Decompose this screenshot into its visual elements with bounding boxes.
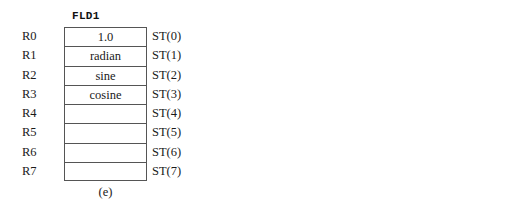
figure-panel-e: FLD1 R0 R1 R2 R3 R4 R5 R6 R7 1.0 radian … [0,0,260,220]
stack-alias-label: ST(1) [152,46,204,65]
register-label: R1 [22,46,62,65]
register-label: R4 [22,104,62,123]
stack-alias-column-e: ST(0) ST(1) ST(2) ST(3) ST(4) ST(5) ST(6… [152,27,204,181]
register-label: R6 [22,143,62,162]
stack-alias-label: ST(6) [152,143,204,162]
panel-caption-e: (e) [64,184,147,200]
instruction-heading-e: FLD1 [72,10,110,23]
instruction-mnemonic: FLD1 [72,10,100,22]
register-label: R3 [22,85,62,104]
register-label: R0 [22,27,62,46]
stack-cell: cosine [65,86,146,105]
register-label: R5 [22,123,62,142]
stack-alias-label: ST(0) [152,27,204,46]
register-label: R2 [22,66,62,85]
stack-cell: sine [65,67,146,86]
stack-cell: radian [65,47,146,66]
stack-cell [65,105,146,124]
figure-panel-f: FADDST(0), ST(1) 1.0 + radian radian sin… [260,0,521,220]
register-label: R7 [22,162,62,181]
stack-alias-label: ST(4) [152,104,204,123]
stack-alias-label: ST(3) [152,85,204,104]
stack-cell [65,144,146,163]
stack-cell [65,163,146,182]
stack-alias-label: ST(2) [152,66,204,85]
register-name-column-e: R0 R1 R2 R3 R4 R5 R6 R7 [22,27,62,181]
stack-cell [65,124,146,143]
figure-canvas: FLD1 R0 R1 R2 R3 R4 R5 R6 R7 1.0 radian … [0,0,521,220]
fpu-stack-box-e: 1.0 radian sine cosine [64,27,147,181]
stack-alias-label: ST(7) [152,162,204,181]
stack-cell: 1.0 [65,28,146,47]
stack-alias-label: ST(5) [152,123,204,142]
